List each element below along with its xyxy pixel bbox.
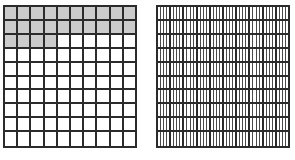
grid-cell-subdivided bbox=[171, 63, 184, 77]
grid-cell-subdivided bbox=[224, 132, 237, 146]
subdivision-strip bbox=[273, 63, 275, 75]
subdivision-strip bbox=[233, 49, 235, 61]
grid-cell-empty bbox=[97, 118, 110, 132]
grid-cell-empty bbox=[111, 90, 124, 104]
subdivision-strip bbox=[273, 132, 275, 146]
grid-cell-subdivided bbox=[250, 7, 263, 21]
subdivision-strip bbox=[167, 21, 169, 33]
cell-subdivisions bbox=[277, 118, 288, 130]
grid-row bbox=[5, 7, 135, 21]
subdivision-strip bbox=[207, 77, 209, 89]
cell-subdivisions bbox=[250, 7, 261, 19]
grid-row bbox=[158, 132, 288, 146]
subdivision-strip bbox=[167, 90, 169, 102]
grid-row bbox=[5, 77, 135, 91]
grid-cell-subdivided bbox=[250, 21, 263, 35]
grid-cell-subdivided bbox=[277, 63, 288, 77]
grid-cell-empty bbox=[97, 63, 110, 77]
grid-cell-subdivided bbox=[277, 104, 288, 118]
grid-cell-subdivided bbox=[224, 7, 237, 21]
cell-subdivisions bbox=[237, 21, 248, 33]
grid-cell-subdivided bbox=[250, 104, 263, 118]
subdivision-strip bbox=[286, 132, 288, 146]
grid-cell-empty bbox=[45, 132, 58, 146]
grid-cell-empty bbox=[111, 77, 124, 91]
grid-cell-empty bbox=[18, 104, 31, 118]
grid-cell-subdivided bbox=[158, 90, 171, 104]
cell-subdivisions bbox=[184, 118, 195, 130]
subdivision-strip bbox=[273, 21, 275, 33]
grid-cell-subdivided bbox=[211, 132, 224, 146]
grid-cell-shaded bbox=[58, 21, 71, 35]
subdivision-strip bbox=[233, 7, 235, 19]
grid-cell-subdivided bbox=[171, 77, 184, 91]
right-grid-rows bbox=[158, 7, 288, 146]
grid-cell-empty bbox=[45, 77, 58, 91]
grid-cell-subdivided bbox=[211, 90, 224, 104]
grid-cell-shaded bbox=[111, 7, 124, 21]
grid-cell-shaded bbox=[45, 35, 58, 49]
grid-cell-subdivided bbox=[184, 90, 197, 104]
grid-cell-empty bbox=[111, 104, 124, 118]
grid-cell-empty bbox=[5, 118, 18, 132]
subdivision-strip bbox=[246, 63, 248, 75]
grid-row bbox=[5, 49, 135, 63]
cell-subdivisions bbox=[224, 77, 235, 89]
cell-subdivisions bbox=[211, 7, 222, 19]
grid-cell-empty bbox=[71, 90, 84, 104]
grid-cell-subdivided bbox=[224, 49, 237, 63]
subdivision-strip bbox=[246, 21, 248, 33]
subdivision-strip bbox=[194, 63, 196, 75]
grid-cell-shaded bbox=[124, 21, 135, 35]
cell-subdivisions bbox=[211, 132, 222, 146]
grid-row bbox=[5, 35, 135, 49]
subdivision-strip bbox=[194, 118, 196, 130]
subdivision-strip bbox=[207, 118, 209, 130]
cell-subdivisions bbox=[277, 132, 288, 146]
grid-cell-empty bbox=[31, 63, 44, 77]
subdivision-strip bbox=[194, 132, 196, 146]
subdivision-strip bbox=[194, 90, 196, 102]
subdivision-strip bbox=[246, 35, 248, 47]
cell-subdivisions bbox=[264, 7, 275, 19]
grid-cell-empty bbox=[5, 132, 18, 146]
cell-subdivisions bbox=[198, 49, 209, 61]
grid-cell-subdivided bbox=[158, 35, 171, 49]
cell-subdivisions bbox=[171, 77, 182, 89]
grid-cell-shaded bbox=[5, 21, 18, 35]
grid-cell-subdivided bbox=[224, 77, 237, 91]
cell-subdivisions bbox=[158, 7, 169, 19]
grid-cell-shaded bbox=[5, 7, 18, 21]
subdivision-strip bbox=[167, 132, 169, 146]
grid-row bbox=[158, 77, 288, 91]
cell-subdivisions bbox=[198, 77, 209, 89]
subdivision-strip bbox=[220, 7, 222, 19]
cell-subdivisions bbox=[198, 35, 209, 47]
cell-subdivisions bbox=[171, 63, 182, 75]
grid-cell-subdivided bbox=[184, 118, 197, 132]
grid-cell-subdivided bbox=[237, 132, 250, 146]
grid-cell-shaded bbox=[71, 21, 84, 35]
grid-cell-subdivided bbox=[158, 7, 171, 21]
subdivision-strip bbox=[207, 132, 209, 146]
cell-subdivisions bbox=[158, 132, 169, 146]
grid-cell-empty bbox=[5, 49, 18, 63]
cell-subdivisions bbox=[211, 21, 222, 33]
cell-subdivisions bbox=[171, 7, 182, 19]
cell-subdivisions bbox=[158, 21, 169, 33]
cell-subdivisions bbox=[224, 49, 235, 61]
grid-cell-subdivided bbox=[264, 49, 277, 63]
cell-subdivisions bbox=[277, 63, 288, 75]
grid-cell-subdivided bbox=[171, 118, 184, 132]
grid-cell-subdivided bbox=[237, 21, 250, 35]
grid-cell-subdivided bbox=[237, 104, 250, 118]
cell-subdivisions bbox=[264, 77, 275, 89]
subdivision-strip bbox=[286, 49, 288, 61]
grid-cell-subdivided bbox=[184, 7, 197, 21]
grid-cell-subdivided bbox=[224, 35, 237, 49]
cell-subdivisions bbox=[250, 49, 261, 61]
cell-subdivisions bbox=[171, 104, 182, 116]
grid-cell-shaded bbox=[71, 7, 84, 21]
cell-subdivisions bbox=[277, 90, 288, 102]
grid-cell-subdivided bbox=[237, 118, 250, 132]
